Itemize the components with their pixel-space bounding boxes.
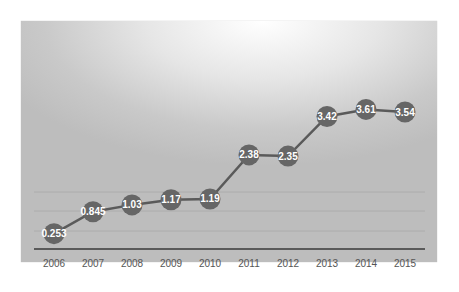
x-tick-label: 2015 (394, 258, 417, 269)
series-line (54, 109, 405, 233)
data-markers: 0.2530.8451.031.171.192.382.353.423.613.… (41, 99, 415, 244)
x-tick-label: 2007 (82, 258, 105, 269)
data-label: 2.35 (278, 151, 298, 162)
data-label: 3.61 (356, 104, 376, 115)
x-tick-label: 2011 (238, 258, 260, 269)
data-point: 1.19 (200, 188, 221, 209)
data-point: 1.17 (161, 189, 182, 210)
x-tick-label: 2010 (199, 258, 222, 269)
data-label: 1.17 (161, 194, 181, 205)
data-label: 2.38 (239, 149, 259, 160)
x-tick-label: 2006 (43, 258, 66, 269)
data-point: 0.845 (80, 201, 105, 222)
data-label: 3.42 (317, 111, 337, 122)
data-point: 3.61 (356, 99, 377, 120)
data-point: 1.03 (122, 194, 143, 215)
data-label: 0.845 (80, 206, 105, 217)
data-point: 2.35 (278, 146, 299, 167)
data-label: 1.03 (122, 199, 142, 210)
x-tick-label: 2009 (160, 258, 183, 269)
x-axis-tick-labels: 2006200720082009201020112012201320142015 (43, 258, 417, 269)
data-point: 3.54 (395, 102, 416, 123)
data-point: 0.253 (41, 223, 66, 244)
data-point: 3.42 (317, 106, 338, 127)
data-label: 3.54 (395, 107, 415, 118)
data-label: 1.19 (200, 193, 220, 204)
x-tick-label: 2008 (121, 258, 144, 269)
data-label: 0.253 (41, 228, 66, 239)
x-tick-label: 2014 (355, 258, 378, 269)
data-point: 2.38 (239, 144, 260, 165)
x-tick-label: 2013 (316, 258, 339, 269)
x-tick-label: 2012 (277, 258, 300, 269)
line-chart: 0.2530.8451.031.171.192.382.353.423.613.… (0, 0, 459, 292)
